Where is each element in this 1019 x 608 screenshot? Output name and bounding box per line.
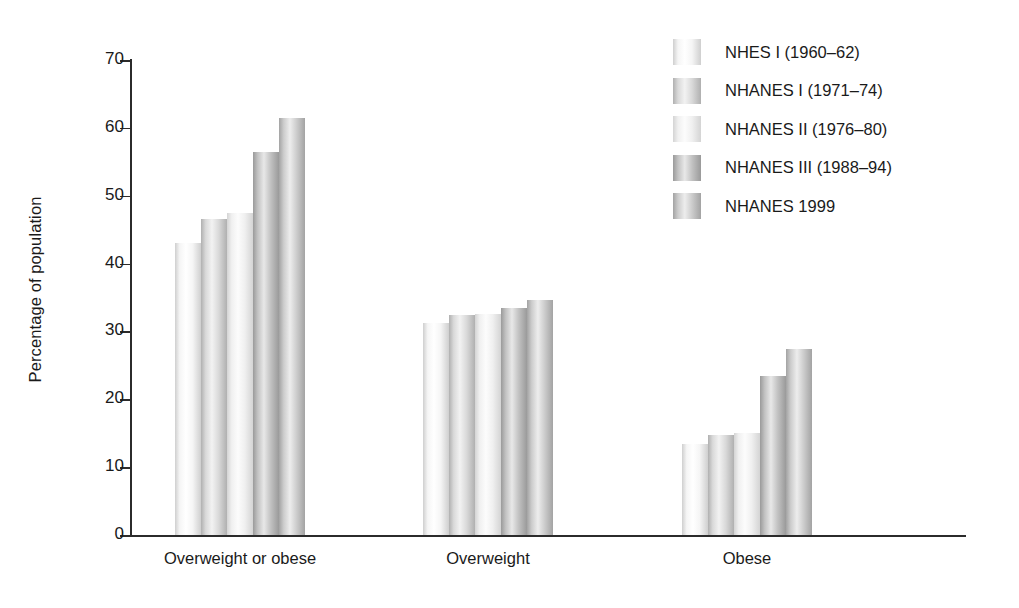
- legend-item[interactable]: NHES I (1960–62): [673, 33, 1013, 72]
- x-axis-category-label: Overweight: [338, 549, 638, 568]
- bar: [734, 433, 760, 535]
- legend-label: NHANES III (1988–94): [725, 158, 892, 177]
- legend-swatch: [673, 78, 701, 104]
- y-tick-label: 10: [105, 456, 124, 476]
- bar: [201, 219, 227, 535]
- bar: [786, 349, 812, 535]
- legend-item[interactable]: NHANES II (1976–80): [673, 110, 1013, 149]
- y-tick-label: 70: [105, 49, 124, 69]
- legend-item[interactable]: NHANES 1999: [673, 187, 1013, 226]
- bar: [279, 118, 305, 535]
- legend-swatch: [673, 193, 701, 219]
- legend-swatch: [673, 39, 701, 65]
- bar-group: Overweight or obese: [175, 60, 305, 535]
- legend-label: NHANES I (1971–74): [725, 81, 883, 100]
- x-axis-category-label: Obese: [597, 549, 897, 568]
- y-tick-label: 50: [105, 185, 124, 205]
- bar-group: Overweight: [423, 60, 553, 535]
- y-tick-label: 0: [115, 524, 124, 544]
- legend-item[interactable]: NHANES III (1988–94): [673, 149, 1013, 188]
- y-tick-label: 30: [105, 320, 124, 340]
- y-tick-label: 60: [105, 117, 124, 137]
- bar: [527, 300, 553, 535]
- legend-swatch: [673, 116, 701, 142]
- legend-label: NHES I (1960–62): [725, 43, 860, 62]
- bar: [423, 323, 449, 535]
- legend-label: NHANES 1999: [725, 197, 835, 216]
- bar: [760, 376, 786, 535]
- y-tick-label: 20: [105, 388, 124, 408]
- y-tick-label: 40: [105, 253, 124, 273]
- legend-swatch: [673, 155, 701, 181]
- legend-label: NHANES II (1976–80): [725, 120, 887, 139]
- y-axis-title: Percentage of population: [26, 190, 45, 390]
- bar: [175, 243, 201, 535]
- bar: [449, 315, 475, 535]
- bar: [253, 152, 279, 535]
- bar: [227, 213, 253, 535]
- bar: [682, 444, 708, 535]
- x-axis-line: [130, 535, 966, 537]
- legend-item[interactable]: NHANES I (1971–74): [673, 72, 1013, 111]
- chart-legend: NHES I (1960–62)NHANES I (1971–74)NHANES…: [673, 33, 1013, 226]
- bar-chart: Percentage of population 010203040506070…: [0, 0, 1019, 608]
- bar: [708, 435, 734, 535]
- bar: [501, 308, 527, 535]
- bar: [475, 314, 501, 535]
